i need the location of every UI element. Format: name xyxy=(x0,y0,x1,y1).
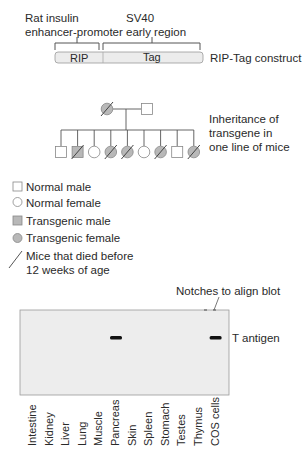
died-symbol xyxy=(9,251,22,268)
child-8 xyxy=(172,147,183,158)
notch-pointer xyxy=(214,297,219,310)
transgenic-male-symbol xyxy=(13,216,22,225)
rip-bracket xyxy=(55,43,99,50)
lane-label: Skin xyxy=(126,425,138,446)
segment-tag-label: Tag xyxy=(143,50,161,64)
pedigree xyxy=(56,102,200,159)
lane-label: Pancreas xyxy=(109,400,121,446)
legend-normal-male: Normal male xyxy=(26,180,91,194)
pedigree-caption-line1: Inheritance of xyxy=(209,112,290,126)
legend-died-line1: Mice that died before xyxy=(26,249,133,263)
band-label: T antigen xyxy=(232,331,280,345)
blot-membrane xyxy=(20,310,229,395)
notches-label: Notches to align blot xyxy=(176,284,280,298)
lane-label: Lung xyxy=(76,422,88,446)
normal-female-symbol xyxy=(13,198,22,207)
legend-normal-female: Normal female xyxy=(26,196,101,210)
lane-label: Muscle xyxy=(92,411,104,446)
child-6 xyxy=(138,146,150,158)
pedigree-caption-line2: transgene in xyxy=(209,126,290,140)
normal-male-symbol xyxy=(13,182,22,191)
legend-died-line2: 12 weeks of age xyxy=(26,263,133,277)
lane-label: COS cells xyxy=(209,397,221,446)
parent-male xyxy=(142,104,153,115)
legend-transgenic-male: Transgenic male xyxy=(26,214,111,228)
construct-brackets xyxy=(55,37,200,50)
legend-symbols xyxy=(9,182,22,268)
legend-transgenic-female: Transgenic female xyxy=(26,231,120,245)
lane-label: Liver xyxy=(59,422,71,446)
tag-bracket xyxy=(103,43,200,50)
pedigree-caption: Inheritance of transgene in one line of … xyxy=(209,112,290,154)
band-cos-cells xyxy=(210,336,222,340)
band-pancreas xyxy=(110,336,122,340)
western-blot xyxy=(20,297,229,395)
lane-label: Kidney xyxy=(43,412,55,446)
transgenic-female-symbol xyxy=(13,234,22,243)
lane-label: Thymus xyxy=(192,407,204,446)
lane-label: Stomach xyxy=(159,403,171,446)
construct-name: RIP-Tag construct xyxy=(210,51,301,65)
segment-rip-label: RIP xyxy=(70,51,88,65)
lane-label: Intestine xyxy=(26,404,38,446)
child-3 xyxy=(88,146,100,158)
lane-label: Spleen xyxy=(142,412,154,446)
child-1 xyxy=(56,147,67,158)
lane-label: Testes xyxy=(175,414,187,446)
legend-died: Mice that died before 12 weeks of age xyxy=(26,249,133,277)
pedigree-caption-line3: one line of mice xyxy=(209,140,290,154)
